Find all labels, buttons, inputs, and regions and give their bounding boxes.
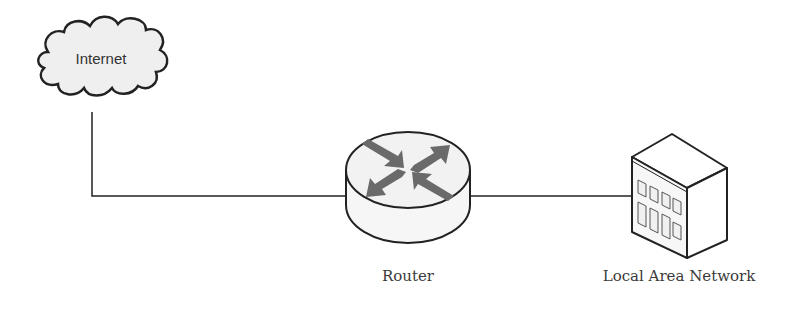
internet-label: Internet	[76, 50, 128, 67]
cloud-icon: Internet	[38, 17, 167, 96]
network-diagram: Internet Router	[0, 0, 803, 312]
lan-label: Local Area Network	[603, 267, 757, 285]
connector-internet-router	[92, 112, 347, 196]
router-label: Router	[382, 267, 435, 285]
router-icon	[346, 132, 470, 243]
building-icon	[632, 134, 727, 258]
